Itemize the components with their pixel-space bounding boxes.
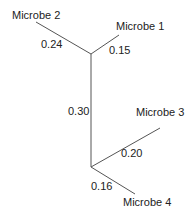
taxon-label-microbe-1: Microbe 1 bbox=[116, 20, 164, 32]
branch-length-microbe-2: 0.24 bbox=[41, 38, 62, 50]
branch-length-microbe-3: 0.20 bbox=[121, 147, 142, 159]
taxon-label-microbe-3: Microbe 3 bbox=[136, 106, 184, 118]
taxon-label-microbe-2: Microbe 2 bbox=[12, 9, 60, 21]
branch-length-microbe-1: 0.15 bbox=[109, 44, 130, 56]
taxon-label-microbe-4: Microbe 4 bbox=[123, 196, 171, 208]
branch-length-internal: 0.30 bbox=[68, 105, 89, 117]
branch-length-microbe-4: 0.16 bbox=[91, 180, 112, 192]
